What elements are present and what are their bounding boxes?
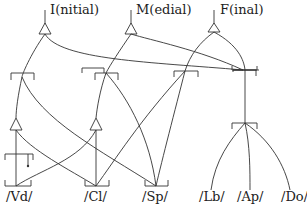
triangle-final — [208, 23, 220, 32]
label-final: F(inal) — [220, 3, 264, 16]
bracket-sp-upper — [174, 71, 198, 77]
curve-ap — [245, 123, 250, 190]
label-ap: /Ap/ — [237, 190, 263, 203]
label-lb: /Lb/ — [199, 190, 225, 203]
curve-lb — [211, 123, 245, 190]
triangle-initial — [39, 23, 51, 34]
label-medial: M(edial) — [136, 3, 192, 16]
triangle-medial — [125, 23, 137, 34]
curve-cl-sp — [106, 73, 156, 186]
curve-initial-vd — [22, 34, 45, 77]
label-cl: /Cl/ — [84, 190, 107, 203]
curve-vd-triangle — [16, 77, 22, 118]
label-initial: I(nitial) — [50, 3, 99, 16]
bracket-vd-lower — [5, 154, 33, 160]
articulation-tree-diagram: I(nitial) M(edial) F(inal) /Vd/ /Cl/ /Sp… — [0, 0, 307, 206]
curve-do — [245, 123, 290, 190]
triangle-vd — [10, 118, 22, 130]
bracket-mid — [82, 68, 104, 73]
label-vd: /Vd/ — [6, 190, 32, 203]
label-sp: /Sp/ — [142, 190, 168, 203]
curve-sp-stem — [156, 71, 185, 186]
curve-cl-triangle — [96, 73, 106, 118]
triangle-cl — [90, 118, 102, 130]
curve-vd-sp — [22, 77, 156, 186]
diagram-lines — [0, 0, 307, 206]
label-do: /Do/ — [281, 190, 307, 203]
curve-final-sp — [185, 32, 214, 71]
bracket-final-hub-left — [233, 70, 256, 76]
curve-initial-final — [45, 34, 243, 70]
curve-medial-cl — [106, 34, 131, 73]
